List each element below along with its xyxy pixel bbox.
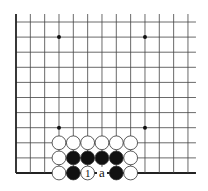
star-point-icon (143, 126, 147, 130)
point-label-a: a (99, 165, 105, 180)
go-board: 1 a (0, 0, 208, 191)
star-point-icon (57, 126, 61, 130)
white-stone (52, 151, 66, 165)
move-number-label: 1 (85, 167, 91, 179)
grid-lines (16, 14, 196, 173)
white-stone (81, 136, 95, 150)
white-stone (95, 136, 109, 150)
white-stone (109, 136, 123, 150)
black-stone (95, 151, 109, 165)
white-stone (66, 136, 80, 150)
go-diagram: 1 a (0, 0, 208, 191)
black-stone (109, 151, 123, 165)
stones: 1 (52, 136, 137, 180)
white-stone (124, 166, 138, 180)
white-stone (52, 166, 66, 180)
black-stone (81, 151, 95, 165)
black-stone (109, 166, 123, 180)
point-labels: a (97, 165, 107, 180)
white-stone (124, 151, 138, 165)
star-point-icon (143, 35, 147, 39)
white-stone (124, 136, 138, 150)
white-stone: 1 (81, 166, 95, 180)
white-stone (52, 136, 66, 150)
star-point-icon (57, 35, 61, 39)
black-stone (66, 151, 80, 165)
black-stone (66, 166, 80, 180)
